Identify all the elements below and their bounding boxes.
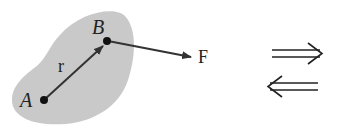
right-double-arrow-icon <box>272 43 322 64</box>
point-b-dot <box>103 37 111 45</box>
label-point-b: B <box>92 17 104 37</box>
label-point-a: A <box>20 90 32 110</box>
label-position-vector: r <box>58 57 64 75</box>
label-force: F <box>198 48 208 66</box>
left-double-arrow-icon <box>268 76 318 97</box>
point-a-dot <box>40 96 48 104</box>
diagram-canvas: A B r F <box>0 0 345 130</box>
